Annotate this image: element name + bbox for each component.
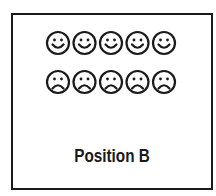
frowny-face-icon bbox=[47, 71, 69, 93]
frowny-face-icon bbox=[127, 71, 149, 93]
smiley-face-icon bbox=[47, 32, 69, 54]
frowny-face-icon bbox=[74, 71, 96, 93]
frowny-face-icon bbox=[153, 71, 175, 93]
smiley-face-icon bbox=[127, 32, 149, 54]
sad-faces-row bbox=[47, 71, 175, 93]
smiley-face-icon bbox=[153, 32, 175, 54]
position-caption: Position B bbox=[26, 146, 198, 167]
happy-faces-row bbox=[47, 32, 175, 54]
smiley-face-icon bbox=[74, 32, 96, 54]
smiley-face-icon bbox=[100, 32, 122, 54]
frowny-face-icon bbox=[100, 71, 122, 93]
